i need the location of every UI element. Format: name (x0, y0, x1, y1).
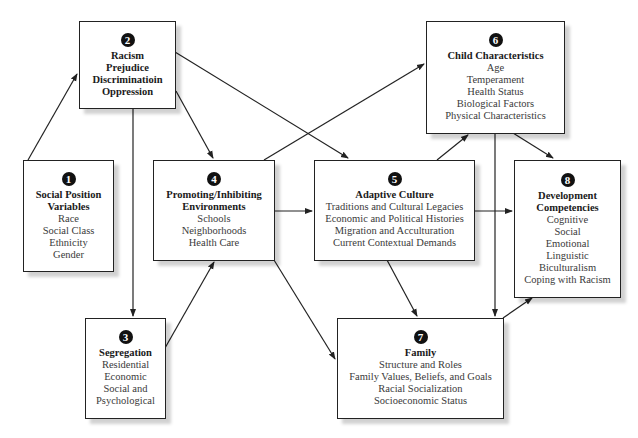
box-title: Racism (111, 50, 144, 62)
box-title: Prejudice (106, 62, 149, 74)
box-item: Temperament (467, 74, 525, 86)
box-development-competencies: 8 Development Competencies Cognitive Soc… (514, 160, 621, 298)
box-title: Development (538, 190, 597, 202)
box-item: Emotional (546, 238, 590, 250)
number-badge: 1 (62, 172, 76, 186)
box-item: Gender (53, 249, 84, 261)
number-badge: 3 (119, 330, 133, 344)
arrow-1-to-2 (28, 74, 77, 160)
box-item: Schools (197, 213, 230, 225)
box-item: Economic (104, 371, 147, 383)
box-adaptive-culture: 5 Adaptive Culture Traditions and Cultur… (314, 160, 475, 261)
box-item: Biculturalism (539, 262, 596, 274)
box-item: Racial Socialization (378, 383, 462, 395)
box-title: Segregation (99, 347, 152, 359)
box-title: Social Position (36, 189, 102, 201)
box-item: Race (58, 213, 79, 225)
arrow-4-to-6 (264, 64, 424, 160)
box-racism-prejudice: 2 Racism Prejudice Discriminatioin Oppre… (79, 21, 176, 109)
box-item: Current Contextual Demands (333, 237, 456, 249)
box-item: Cognitive (547, 214, 588, 226)
arrow-7-to-8 (503, 298, 532, 318)
number-badge: 5 (388, 172, 402, 186)
number-badge: 6 (489, 33, 503, 47)
box-item: Health Status (467, 86, 523, 98)
box-item: Socioeconomic Status (374, 395, 467, 407)
box-item: Social and (103, 383, 147, 395)
box-title: Environments (182, 201, 245, 213)
arrow-5-to-7 (387, 260, 417, 316)
arrow-3-to-4 (165, 262, 214, 348)
number-badge: 4 (207, 172, 221, 186)
box-item: Coping with Racism (524, 274, 610, 286)
box-item: Migration and Acculturation (335, 225, 455, 237)
box-segregation: 3 Segregation Residential Economic Socia… (85, 318, 166, 419)
box-title: Variables (47, 201, 89, 213)
number-badge: 2 (121, 33, 135, 47)
arrow-2-to-4 (176, 91, 213, 158)
box-item: Psychological (96, 395, 155, 407)
box-item: Residential (102, 359, 149, 371)
box-title: Promoting/Inhibiting (166, 189, 262, 201)
box-social-position-variables: 1 Social Position Variables Race Social … (23, 160, 114, 272)
box-item: Biological Factors (457, 98, 534, 110)
box-title: Adaptive Culture (355, 189, 433, 201)
box-item: Social (554, 226, 580, 238)
arrow-4-to-7 (274, 260, 335, 359)
box-item: Physical Characteristics (445, 110, 546, 122)
box-item: Traditions and Cultural Legacies (326, 201, 464, 213)
box-title: Child Characteristics (448, 50, 544, 62)
box-item: Health Care (189, 237, 239, 249)
box-child-characteristics: 6 Child Characteristics Age Temperament … (426, 21, 565, 134)
arrow-6-to-8 (513, 133, 553, 158)
number-badge: 7 (414, 330, 428, 344)
box-family: 7 Family Structure and Roles Family Valu… (337, 318, 504, 419)
box-title: Oppression (102, 86, 153, 98)
box-item: Family Values, Beliefs, and Goals (349, 371, 492, 383)
box-title: Family (405, 347, 437, 359)
box-item: Social Class (43, 225, 95, 237)
box-title: Competencies (536, 202, 598, 214)
number-badge: 8 (561, 173, 575, 187)
box-item: Structure and Roles (379, 359, 462, 371)
box-item: Neighborhoods (182, 225, 247, 237)
box-title: Discriminatioin (93, 74, 163, 86)
box-item: Economic and Political Histories (325, 213, 464, 225)
box-item: Age (487, 62, 505, 74)
box-item: Linguistic (546, 250, 589, 262)
box-item: Ethnicity (49, 237, 88, 249)
box-promoting-inhibiting-environments: 4 Promoting/Inhibiting Environments Scho… (153, 160, 275, 261)
arrow-5-to-6 (437, 135, 468, 160)
arrow-2-to-5 (175, 52, 348, 158)
